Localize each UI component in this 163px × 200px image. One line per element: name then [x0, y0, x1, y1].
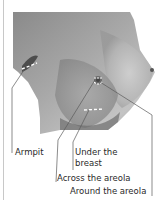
label-armpit: Armpit	[15, 147, 44, 157]
label-across-areola: Across the areola	[57, 173, 131, 183]
label-around-areola: Around the areola	[70, 186, 146, 196]
anatomy-photo	[0, 0, 163, 200]
label-under-breast-line1: Under the	[75, 147, 117, 157]
label-under-breast-line2: breast	[75, 158, 102, 168]
leader-armpit	[12, 70, 24, 153]
